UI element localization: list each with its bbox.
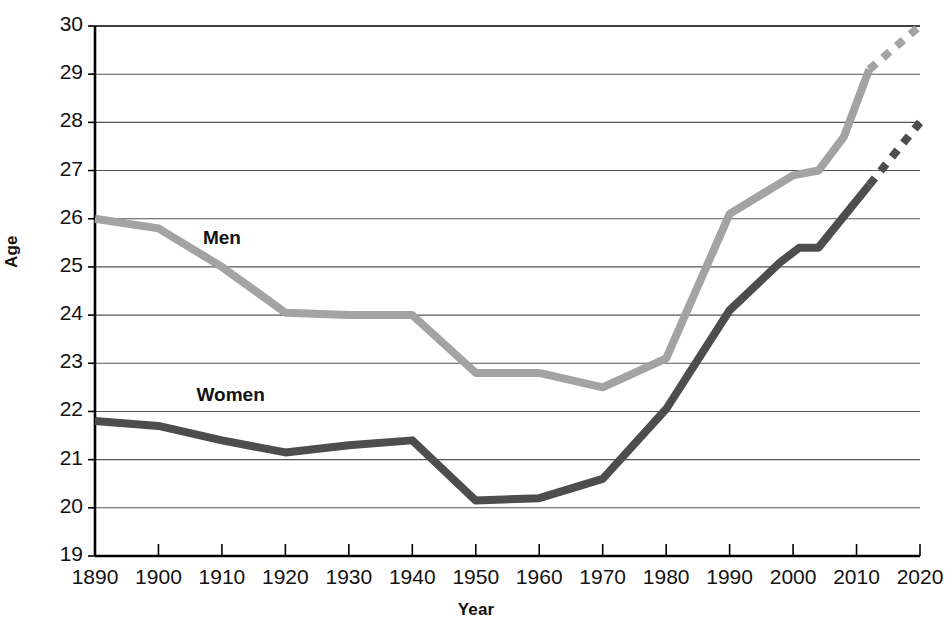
series-label-men: Men bbox=[203, 227, 241, 249]
series-projection-men bbox=[869, 26, 920, 69]
x-tick-label: 2020 bbox=[885, 565, 952, 589]
x-tick-label: 1950 bbox=[441, 565, 511, 589]
x-tick-label: 1990 bbox=[695, 565, 765, 589]
plot-area bbox=[0, 0, 952, 633]
x-tick-label: 2000 bbox=[758, 565, 828, 589]
x-tick-label: 1900 bbox=[123, 565, 193, 589]
x-tick-label: 2010 bbox=[822, 565, 892, 589]
x-tick-label: 1940 bbox=[377, 565, 447, 589]
y-tick-label: 22 bbox=[31, 397, 83, 421]
x-tick-label: 1930 bbox=[314, 565, 384, 589]
y-tick-label: 21 bbox=[31, 446, 83, 470]
series-women bbox=[95, 122, 920, 500]
x-tick-label: 1890 bbox=[60, 565, 130, 589]
series-projection-women bbox=[869, 122, 920, 185]
data-series-group bbox=[95, 26, 920, 501]
x-tick-label: 1960 bbox=[504, 565, 574, 589]
y-tick-label: 25 bbox=[31, 253, 83, 277]
chart-container: Age Year 1920212223242526272829301890190… bbox=[0, 0, 952, 633]
y-tick-label: 27 bbox=[31, 157, 83, 181]
x-tick-label: 1920 bbox=[250, 565, 320, 589]
series-men bbox=[95, 26, 920, 387]
y-tick-label: 24 bbox=[31, 301, 83, 325]
y-tick-label: 29 bbox=[31, 60, 83, 84]
x-axis-ticks bbox=[95, 544, 920, 556]
series-label-women: Women bbox=[197, 384, 265, 406]
x-tick-label: 1980 bbox=[631, 565, 701, 589]
y-tick-label: 23 bbox=[31, 349, 83, 373]
y-tick-label: 26 bbox=[31, 205, 83, 229]
y-tick-label: 30 bbox=[31, 12, 83, 36]
axis-frame bbox=[95, 26, 920, 556]
y-tick-label: 20 bbox=[31, 494, 83, 518]
y-tick-label: 19 bbox=[31, 542, 83, 566]
y-tick-label: 28 bbox=[31, 108, 83, 132]
x-tick-label: 1970 bbox=[568, 565, 638, 589]
x-tick-label: 1910 bbox=[187, 565, 257, 589]
